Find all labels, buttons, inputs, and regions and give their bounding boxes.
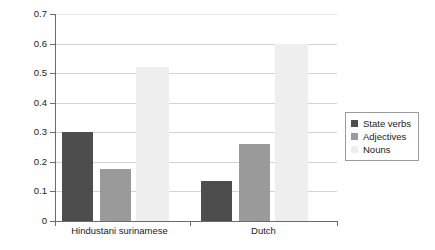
y-axis-tick-label: 0.3 [0, 127, 47, 137]
legend-item-state-verbs: State verbs [351, 117, 411, 130]
bar [62, 132, 93, 221]
bar [136, 67, 169, 221]
bars-container [55, 14, 337, 221]
y-axis-tick-label: 0.7 [0, 9, 47, 19]
x-axis-tick [337, 221, 338, 226]
x-axis-line [55, 221, 338, 222]
legend-label: State verbs [363, 119, 411, 129]
x-axis-label-group-0: Hindustani surinamese [52, 226, 187, 236]
bar [239, 144, 270, 221]
bar [275, 44, 308, 221]
legend-label: Adjectives [363, 132, 406, 142]
y-axis-tick-label: 0.6 [0, 39, 47, 49]
legend-item-adjectives: Adjectives [351, 130, 411, 143]
y-axis-tick-label: 0.4 [0, 98, 47, 108]
legend-swatch-icon [351, 133, 358, 140]
x-axis-label-group-1: Dutch [190, 226, 337, 236]
legend-swatch-icon [351, 120, 358, 127]
y-axis-tick-label: 0.5 [0, 68, 47, 78]
y-axis-tick-label: 0 [0, 216, 47, 226]
bar [100, 169, 131, 221]
bar-chart: 0.70.60.50.40.30.20.10 Hindustani surina… [0, 0, 435, 250]
legend-swatch-icon [351, 146, 358, 153]
y-axis-tick-label: 0.1 [0, 186, 47, 196]
legend: State verbs Adjectives Nouns [345, 112, 419, 161]
legend-item-nouns: Nouns [351, 143, 411, 156]
bar [201, 181, 232, 221]
y-axis-tick-label: 0.2 [0, 157, 47, 167]
legend-label: Nouns [363, 145, 390, 155]
